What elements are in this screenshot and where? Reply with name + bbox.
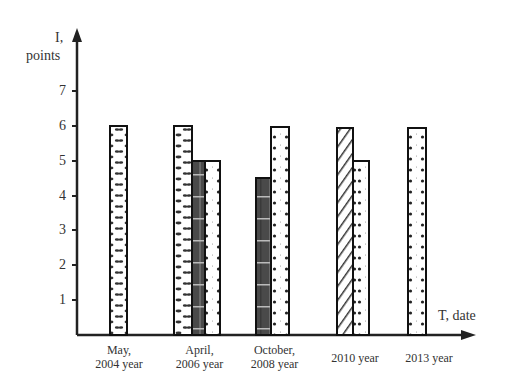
y-tick-3: 3: [50, 222, 66, 238]
y-tick-7: 7: [50, 83, 66, 99]
y-axis-title-line1: I,: [55, 30, 63, 46]
bar-october-2008-a: [256, 178, 271, 335]
bar-october-2008-b: [271, 127, 289, 335]
y-tick-6: 6: [50, 118, 66, 134]
x-label-may-2004: May, 2004 year: [84, 343, 154, 371]
x-label-2010: 2010 year: [320, 351, 390, 365]
chart-canvas: [0, 0, 522, 386]
y-axis-title-line2: points: [26, 48, 60, 64]
bar-2010-b: [353, 161, 369, 335]
bar-2013: [408, 128, 426, 335]
x-label-2013: 2013 year: [394, 351, 464, 365]
bar-2010-a: [337, 128, 353, 335]
bar-april-2006-c: [205, 161, 220, 335]
y-axis-arrow-icon: [72, 28, 82, 42]
bar-april-2006-b: [192, 161, 205, 335]
y-tick-2: 2: [50, 257, 66, 273]
y-tick-4: 4: [50, 188, 66, 204]
x-axis-arrow-icon: [461, 330, 476, 340]
bar-may-2004: [110, 126, 127, 335]
bar-april-2006-a: [174, 126, 192, 335]
x-label-april-2006: April, 2006 year: [162, 343, 237, 371]
y-tick-1: 1: [50, 292, 66, 308]
x-axis-title: T, date: [438, 308, 476, 324]
x-label-october-2008: October, 2008 year: [237, 343, 312, 371]
y-tick-5: 5: [50, 153, 66, 169]
